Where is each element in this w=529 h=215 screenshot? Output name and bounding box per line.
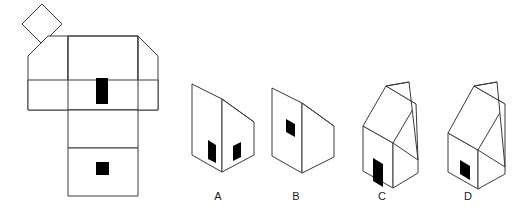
option-b-shape — [272, 88, 334, 173]
option-a-front-face — [192, 84, 222, 172]
unfolded-net — [22, 4, 158, 196]
option-d-label: D — [464, 190, 472, 202]
figure-canvas: A B C — [0, 0, 529, 215]
option-b-label: B — [292, 190, 299, 202]
option-a-shape — [192, 84, 254, 172]
net-square-window-aperture — [96, 162, 109, 175]
option-d-right-wall — [478, 150, 505, 189]
option-c-shape — [363, 82, 418, 188]
option-b-right-face — [302, 103, 334, 173]
option-d-shape — [448, 82, 505, 189]
option-c-right-wall — [393, 143, 418, 188]
option-a-label: A — [214, 190, 222, 202]
option-c-label: C — [378, 190, 386, 202]
net-face-side-wall-upper — [68, 110, 138, 148]
net-tall-door-aperture — [96, 78, 108, 104]
spatial-reasoning-figure: A B C — [0, 0, 529, 215]
